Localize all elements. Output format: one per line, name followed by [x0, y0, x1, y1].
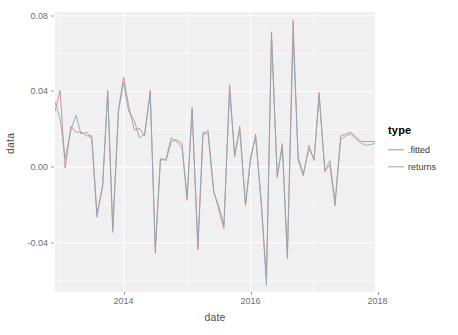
- legend: type .fittedreturns: [388, 124, 458, 175]
- legend-item-label: .fitted: [408, 145, 430, 155]
- y-tick-label: 0.08: [18, 11, 48, 21]
- y-tick-mark: [51, 15, 54, 16]
- y-tick-label: -0.04: [18, 238, 48, 248]
- x-axis-title: date: [55, 311, 375, 323]
- legend-item-returns[interactable]: returns: [388, 158, 458, 175]
- chart-container: data date 0.080.040.00-0.04 201420162018…: [0, 0, 458, 335]
- legend-key-line-icon: [388, 144, 404, 156]
- legend-title: type: [388, 124, 458, 136]
- x-tick-mark: [378, 292, 379, 295]
- x-tick-mark: [124, 292, 125, 295]
- legend-key-line-icon: [388, 161, 404, 173]
- series-line-returns: [55, 38, 375, 286]
- y-tick-mark: [51, 91, 54, 92]
- plot-panel: [55, 12, 375, 292]
- x-tick-mark: [251, 292, 252, 295]
- x-tick-label: 2016: [231, 296, 271, 306]
- series-line-fitted: [55, 21, 375, 278]
- legend-item-label: returns: [408, 162, 436, 172]
- y-tick-mark: [51, 242, 54, 243]
- series-lines: [55, 21, 375, 286]
- plot-svg: [55, 12, 375, 292]
- gridlines: [55, 12, 375, 292]
- x-tick-label: 2014: [104, 296, 144, 306]
- y-tick-label: 0.04: [18, 86, 48, 96]
- legend-item-fitted[interactable]: .fitted: [388, 141, 458, 158]
- y-tick-mark: [51, 167, 54, 168]
- x-tick-label: 2018: [358, 296, 398, 306]
- y-tick-label: 0.00: [18, 162, 48, 172]
- legend-items: .fittedreturns: [388, 141, 458, 175]
- y-axis-title: data: [4, 138, 16, 154]
